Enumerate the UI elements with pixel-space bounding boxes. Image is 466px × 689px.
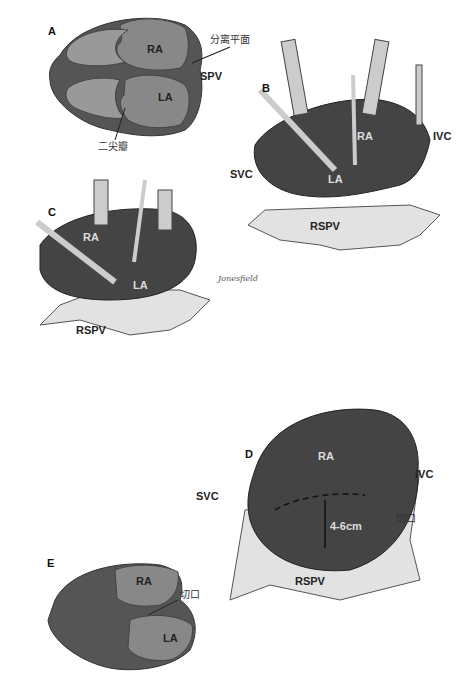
label-spv-a: SPV <box>200 70 223 82</box>
panel-label-a: A <box>48 25 56 37</box>
artist-signature: Jonesfield <box>216 274 258 283</box>
label-mitral-a: 二尖瓣 <box>98 140 128 152</box>
surgical-illustration: A RA LA SPV 分离平面 二尖瓣 B RA LA SVC IVC RSP… <box>0 0 466 689</box>
label-ivc-b: IVC <box>433 130 451 142</box>
label-la-e: LA <box>163 632 178 644</box>
panel-label-e: E <box>47 557 54 569</box>
label-incision-e: 切口 <box>180 589 200 600</box>
label-svc-d: SVC <box>196 490 219 502</box>
panel-label-c: C <box>48 206 56 218</box>
label-ra-e: RA <box>136 575 152 587</box>
label-svc-b: SVC <box>230 168 253 180</box>
label-la-b: LA <box>328 173 343 185</box>
label-la-c: LA <box>133 279 148 291</box>
label-ivc-d: IVC <box>415 468 433 480</box>
label-plane-a: 分离平面 <box>210 33 250 45</box>
panel-d: D RA SVC IVC 4-6cm 切口 RSPV <box>196 409 433 600</box>
label-rspv-d: RSPV <box>295 575 326 587</box>
label-ra-c: RA <box>83 231 99 243</box>
label-ra-d: RA <box>318 450 334 462</box>
label-la-a: LA <box>158 91 173 103</box>
panel-label-b: B <box>262 82 270 94</box>
panel-c: C RA LA RSPV Jonesfield <box>37 180 258 336</box>
label-rspv-b: RSPV <box>310 220 341 232</box>
label-rspv-c: RSPV <box>76 324 107 336</box>
label-incision-d: 切口 <box>396 513 416 524</box>
panel-a: A RA LA SPV 分离平面 二尖瓣 <box>48 18 250 152</box>
panel-e: E RA LA 切口 <box>47 557 200 670</box>
panel-b: B RA LA SVC IVC RSPV <box>230 39 451 250</box>
label-ra-b: RA <box>357 130 373 142</box>
panel-label-d: D <box>245 448 253 460</box>
label-measure-d: 4-6cm <box>330 520 362 532</box>
label-ra-a: RA <box>147 43 163 55</box>
